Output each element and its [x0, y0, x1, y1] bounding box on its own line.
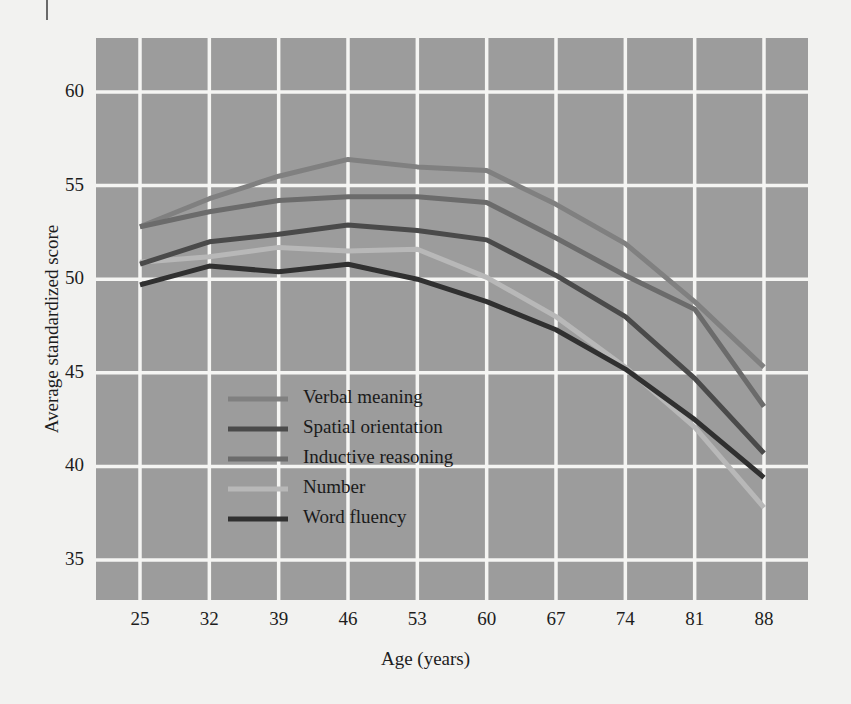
y-tick-label: 45: [44, 361, 84, 383]
legend-item-label: Spatial orientation: [303, 416, 443, 438]
y-tick-label: 50: [44, 267, 84, 289]
x-tick-label: 25: [118, 608, 162, 630]
legend-item-label: Inductive reasoning: [303, 446, 453, 468]
x-tick-label: 74: [603, 608, 647, 630]
x-tick-label: 60: [465, 608, 509, 630]
legend-item-label: Number: [303, 476, 365, 498]
y-tick-label: 55: [44, 174, 84, 196]
x-tick-label: 88: [742, 608, 786, 630]
x-tick-label: 32: [187, 608, 231, 630]
legend-item-label: Word fluency: [303, 506, 406, 528]
y-tick-label: 40: [44, 454, 84, 476]
x-tick-label: 67: [534, 608, 578, 630]
x-tick-label: 81: [673, 608, 717, 630]
x-tick-label: 39: [257, 608, 301, 630]
x-tick-label: 46: [326, 608, 370, 630]
x-tick-label: 53: [395, 608, 439, 630]
line-chart: [0, 0, 851, 704]
y-tick-label: 60: [44, 80, 84, 102]
figure-container: Age (years) Average standardized score 2…: [0, 0, 851, 704]
x-axis-title: Age (years): [0, 648, 851, 670]
y-tick-label: 35: [44, 548, 84, 570]
legend-item-label: Verbal meaning: [303, 386, 423, 408]
